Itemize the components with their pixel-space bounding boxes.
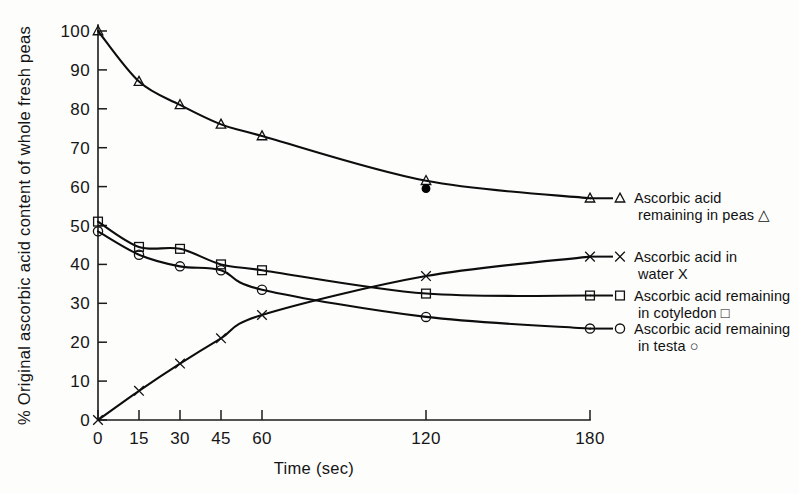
series-0 [93,26,595,202]
y-tick-label-40: 40 [70,255,90,274]
y-tick-label-60: 60 [70,178,90,197]
filled-marker-peas-120s [422,185,430,193]
legend-item-2[interactable]: Ascorbic acid remainingin cotyledon □ [590,288,790,321]
y-tick-label-30: 30 [70,294,90,313]
series-3 [93,227,594,333]
legend-label-line1-1: Ascorbic acid in [634,249,737,265]
legend-label-line2-3: in testa ○ [638,338,699,354]
ascorbic-acid-line-chart: 0102030405060708090100015304560120180 As… [0,0,799,494]
y-tick-label-50: 50 [70,217,90,236]
legend-marker-x-icon [615,252,625,262]
y-tick-label-20: 20 [70,333,90,352]
x-axis-title: Time (sec) [274,459,354,477]
data-point-s1-i2 [175,359,185,369]
series-line-3 [98,231,590,328]
x-tick-label-30: 30 [170,429,190,448]
legend-label-line2-1: water X [637,266,688,282]
series-line-2 [98,222,590,296]
legend-label-line1-2: Ascorbic acid remaining [634,288,790,304]
x-tick-label-15: 15 [129,429,149,448]
series-line-1 [98,257,590,420]
legend-item-1[interactable]: Ascorbic acid inwater X [590,249,737,282]
x-tick-label-180: 180 [575,429,605,448]
series-group [93,26,595,425]
x-tick-label-60: 60 [252,429,272,448]
legend-item-0[interactable]: Ascorbic acidremaining in peas △ [590,190,770,223]
legend-group: Ascorbic acidremaining in peas △Ascorbic… [590,190,790,353]
legend-marker-triangle-icon [615,193,625,202]
legend-label-line1-3: Ascorbic acid remaining [634,321,790,337]
x-tick-label-45: 45 [211,429,231,448]
series-2 [94,217,595,300]
x-tick-label-120: 120 [411,429,441,448]
y-tick-label-90: 90 [70,61,90,80]
data-point-s1-i1 [134,386,144,396]
series-1 [93,252,595,425]
legend-label-line2-2: in cotyledon □ [638,305,730,321]
y-tick-label-100: 100 [60,22,90,41]
series-line-0 [98,31,590,198]
data-point-s1-i3 [216,334,226,344]
y-axis-title: % Original ascorbic acid content of whol… [15,26,33,425]
y-tick-label-0: 0 [80,411,90,430]
figure-container: 0102030405060708090100015304560120180 As… [0,0,799,494]
y-tick-label-80: 80 [70,100,90,119]
legend-marker-circle-icon [615,324,624,333]
y-tick-label-70: 70 [70,139,90,158]
y-tick-label-10: 10 [70,372,90,391]
legend-label-line2-0: remaining in peas △ [638,207,770,223]
x-tick-label-0: 0 [93,429,103,448]
legend-label-line1-0: Ascorbic acid [634,190,722,206]
legend-item-3[interactable]: Ascorbic acid remainingin testa ○ [590,321,790,354]
legend-marker-square-icon [616,291,625,300]
